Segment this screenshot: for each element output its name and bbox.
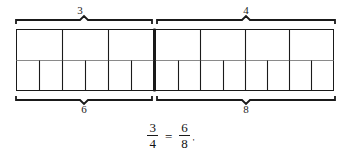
left-model-top-label: 3 — [70, 5, 90, 16]
left-grid — [17, 30, 154, 91]
right-fraction-numerator: 6 — [178, 121, 191, 135]
equation-trailing-mark: ' — [193, 137, 195, 147]
right-top-row-dividers — [201, 30, 290, 61]
left-top-row-dividers — [63, 30, 109, 61]
brace-top-right — [157, 16, 335, 24]
right-bottom-row-dividers — [179, 61, 312, 91]
left-fraction-numerator: 3 — [147, 121, 160, 135]
right-fraction-denominator: 8 — [178, 136, 191, 150]
fraction-area-model-figure: 3 4 6 8 3 4 = 6 8 ' — [0, 0, 344, 162]
fraction-six-eighths: 6 8 — [178, 121, 191, 150]
left-bottom-row-dividers — [40, 61, 132, 91]
right-model-top-label: 4 — [236, 5, 256, 16]
brace-top-left — [16, 16, 152, 24]
fraction-equation: 3 4 = 6 8 ' — [0, 121, 344, 150]
fraction-three-fourths: 3 4 — [147, 121, 160, 150]
left-fraction-denominator: 4 — [147, 136, 160, 150]
equals-sign: = — [164, 129, 173, 145]
right-grid — [155, 29, 334, 92]
left-model-bottom-label: 6 — [74, 104, 94, 115]
right-model-bottom-label: 8 — [236, 104, 256, 115]
